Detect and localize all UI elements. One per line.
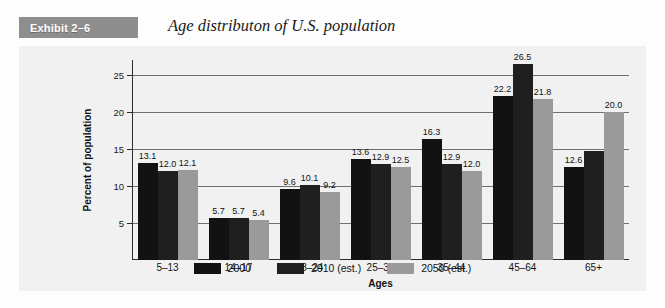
bar-value-label: 9.2 xyxy=(323,180,336,190)
legend-item[interactable]: 2050 (est.) xyxy=(387,262,471,274)
bar-fill xyxy=(462,171,482,260)
bar[interactable]: 10.1 xyxy=(300,185,320,260)
bar-value-label: 16.3 xyxy=(423,127,441,137)
y-axis-title: Percent of population xyxy=(82,109,93,212)
bar-value-label: 12.6 xyxy=(565,155,583,165)
legend-item[interactable]: 2010 (est.) xyxy=(277,262,361,274)
bar[interactable]: 12.0 xyxy=(462,171,482,260)
bar[interactable]: 26.5 xyxy=(513,64,533,260)
legend-label: 2050 (est.) xyxy=(421,262,471,274)
x-axis-title: Ages xyxy=(132,278,629,289)
bar[interactable]: 12.6 xyxy=(564,167,584,260)
bar-value-label: 5.4 xyxy=(252,208,265,218)
bar-fill xyxy=(422,139,442,260)
bar-value-label: 5.7 xyxy=(212,206,225,216)
bar-fill xyxy=(391,167,411,260)
bar[interactable]: 12.0 xyxy=(158,171,178,260)
bar-fill xyxy=(209,218,229,260)
bar-groups: 13.112.012.15.75.75.49.610.19.213.612.91… xyxy=(132,60,629,260)
bar-value-label: 9.6 xyxy=(283,177,296,187)
y-tick-label: 15 xyxy=(102,143,124,154)
bar[interactable]: 16.3 xyxy=(422,139,442,260)
bar-fill xyxy=(249,220,269,260)
bar[interactable]: 9.6 xyxy=(280,189,300,260)
bar-fill xyxy=(280,189,300,260)
bar-group: 22.226.521.8 xyxy=(487,60,558,260)
bar-fill xyxy=(229,218,249,260)
y-tick-labels: 510152025 xyxy=(99,60,124,260)
bar[interactable]: 13.6 xyxy=(351,159,371,260)
bar-value-label: 12.1 xyxy=(179,158,197,168)
exhibit-tag-label: Exhibit 2–6 xyxy=(19,22,90,34)
bar[interactable]: 5.7 xyxy=(209,218,229,260)
exhibit-tag: Exhibit 2–6 xyxy=(19,17,138,38)
bar-fill xyxy=(138,163,158,260)
bar-fill xyxy=(371,164,391,260)
bar[interactable]: 22.2 xyxy=(493,96,513,260)
bar-value-label: 13.1 xyxy=(139,151,157,161)
bar-fill xyxy=(442,164,462,260)
bar-value-label: 5.7 xyxy=(232,206,245,216)
bar[interactable]: 12.9 xyxy=(371,164,391,260)
chart-legend: 20002010 (est.)2050 (est.) xyxy=(0,262,665,274)
bar[interactable]: 5.7 xyxy=(229,218,249,260)
bar-value-label: 12.9 xyxy=(372,152,390,162)
bar-fill xyxy=(493,96,513,260)
bar-value-label: 20.0 xyxy=(605,100,623,110)
bar-value-label: 22.2 xyxy=(494,84,512,94)
bar-fill xyxy=(351,159,371,260)
bar[interactable] xyxy=(584,151,604,260)
bar-value-label: 12.5 xyxy=(392,155,410,165)
y-axis-title-holder: Percent of population xyxy=(92,60,93,260)
bar-value-label: 12.9 xyxy=(443,152,461,162)
bar-fill xyxy=(584,151,604,260)
bar-value-label: 26.5 xyxy=(514,52,532,62)
y-tick-label: 10 xyxy=(102,180,124,191)
bar-value-label: 10.1 xyxy=(301,173,319,183)
legend-item[interactable]: 2000 xyxy=(194,262,251,274)
bar-value-label: 12.0 xyxy=(463,159,481,169)
bar-value-label: 21.8 xyxy=(534,87,552,97)
bar-group: 12.620.0 xyxy=(558,60,629,260)
chart-title: Age distributon of U.S. population xyxy=(168,16,395,36)
y-tick-label: 5 xyxy=(102,217,124,228)
bar[interactable]: 20.0 xyxy=(604,112,624,260)
bar[interactable]: 21.8 xyxy=(533,99,553,260)
legend-swatch xyxy=(194,263,221,274)
bar-fill xyxy=(178,170,198,260)
legend-label: 2000 xyxy=(228,262,251,274)
chart-panel: Percent of population 510152025 13.112.0… xyxy=(19,46,646,291)
bar-fill xyxy=(564,167,584,260)
bar[interactable]: 12.1 xyxy=(178,170,198,260)
bar-group: 5.75.75.4 xyxy=(203,60,274,260)
bar[interactable]: 5.4 xyxy=(249,220,269,260)
exhibit-figure: Exhibit 2–6 Age distributon of U.S. popu… xyxy=(0,0,665,308)
bar-value-label: 13.6 xyxy=(352,147,370,157)
bar-group: 9.610.19.2 xyxy=(274,60,345,260)
bar-fill xyxy=(533,99,553,260)
y-tick-label: 20 xyxy=(102,106,124,117)
bar[interactable]: 12.5 xyxy=(391,167,411,260)
bar-value-label: 12.0 xyxy=(159,159,177,169)
y-tick-label: 25 xyxy=(102,69,124,80)
bar-fill xyxy=(158,171,178,260)
legend-swatch xyxy=(277,263,304,274)
legend-swatch xyxy=(387,263,414,274)
legend-label: 2010 (est.) xyxy=(311,262,361,274)
bar-group: 13.112.012.1 xyxy=(132,60,203,260)
bar[interactable]: 12.9 xyxy=(442,164,462,260)
bar-group: 16.312.912.0 xyxy=(416,60,487,260)
bar-fill xyxy=(320,192,340,260)
bar-fill xyxy=(300,185,320,260)
bar-fill xyxy=(604,112,624,260)
bar[interactable]: 9.2 xyxy=(320,192,340,260)
bar[interactable]: 13.1 xyxy=(138,163,158,260)
bar-fill xyxy=(513,64,533,260)
bar-group: 13.612.912.5 xyxy=(345,60,416,260)
